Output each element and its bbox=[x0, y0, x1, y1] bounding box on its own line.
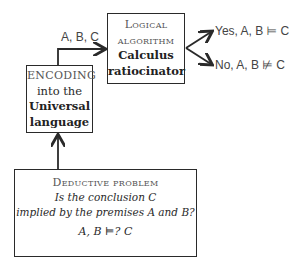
encoding-box: ENCODING into the Universal language bbox=[26, 65, 93, 133]
problem-formula: A, B ⊨? C bbox=[15, 224, 196, 239]
logical-algorithm-box: Logical algorithm Calculus ratiocinator bbox=[107, 13, 185, 84]
logic-line-1: Logical bbox=[108, 17, 184, 33]
problem-line-1: Is the conclusion C bbox=[15, 190, 196, 205]
logic-line-3: Calculus bbox=[108, 48, 184, 64]
encoding-line-4: language bbox=[27, 115, 92, 131]
problem-line-2: implied by the premises A and B? bbox=[15, 205, 196, 220]
logic-line-2: algorithm bbox=[108, 33, 184, 49]
logic-line-4: ratiocinator bbox=[108, 64, 184, 80]
problem-title: Deductive problem bbox=[15, 175, 196, 190]
edge-label-input: A, B, C bbox=[61, 30, 99, 44]
deductive-problem-box: Deductive problem Is the conclusion C im… bbox=[14, 169, 197, 257]
encoding-line-1: ENCODING bbox=[27, 68, 92, 84]
arrow-logic-to-no bbox=[186, 48, 211, 64]
output-yes: Yes, A, B ⊨ C bbox=[215, 24, 289, 38]
encoding-line-2: into the bbox=[27, 84, 92, 100]
output-no: No, A, B ⊭ C bbox=[215, 58, 285, 72]
arrow-encoding-to-logic bbox=[58, 49, 104, 65]
encoding-line-3: Universal bbox=[27, 99, 92, 115]
arrow-logic-to-yes bbox=[186, 32, 211, 48]
